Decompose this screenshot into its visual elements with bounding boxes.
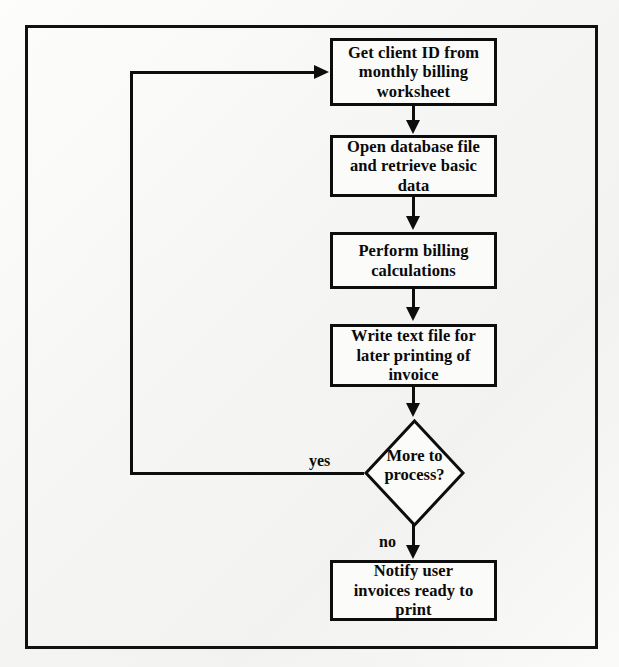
node-get-client-id-line-2: monthly billing [348, 62, 479, 81]
node-notify-user-line-3: print [354, 600, 474, 619]
edge-yes-horizontal-top [130, 71, 315, 74]
edge-open-database-to-perform-billing-arrow [406, 216, 420, 230]
flowchart-canvas: Get client ID from monthly billing works… [0, 0, 619, 667]
edge-no-arrow [406, 545, 420, 559]
node-perform-billing-line-2: calculations [358, 261, 468, 280]
node-get-client-id[interactable]: Get client ID from monthly billing works… [330, 38, 497, 106]
edge-get-client-id-to-open-database-arrow [406, 120, 420, 134]
edge-yes-vertical [130, 71, 133, 475]
edge-write-text-file-to-decision-arrow [406, 403, 420, 417]
node-perform-billing-line-1: Perform billing [358, 241, 468, 260]
node-write-text-file-line-3: invoice [351, 365, 476, 384]
node-open-database[interactable]: Open database file and retrieve basic da… [330, 135, 497, 197]
edge-yes-arrow [314, 65, 329, 79]
node-more-to-process-label: More to process? [363, 446, 466, 485]
node-perform-billing[interactable]: Perform billing calculations [330, 232, 497, 289]
node-notify-user[interactable]: Notify user invoices ready to print [330, 560, 497, 621]
edge-open-database-to-perform-billing-line [412, 197, 415, 218]
diagram-frame-border [25, 25, 598, 649]
node-write-text-file[interactable]: Write text file for later printing of in… [330, 324, 497, 387]
node-write-text-file-line-1: Write text file for [351, 326, 476, 345]
edge-label-yes: yes [309, 452, 330, 470]
edge-no-line [412, 524, 415, 547]
edge-perform-billing-to-write-text-file-line [412, 289, 415, 309]
node-notify-user-line-1: Notify user [354, 561, 474, 580]
node-get-client-id-line-3: worksheet [348, 82, 479, 101]
node-open-database-line-3: data [347, 176, 480, 195]
edge-yes-horizontal-bottom [130, 472, 364, 475]
node-notify-user-line-2: invoices ready to [354, 581, 474, 600]
node-write-text-file-line-2: later printing of [351, 346, 476, 365]
node-open-database-line-2: and retrieve basic [347, 156, 480, 175]
node-more-to-process-line-2: process? [384, 465, 444, 484]
node-open-database-line-1: Open database file [347, 137, 480, 156]
edge-label-no: no [379, 533, 396, 551]
node-more-to-process-line-1: More to [386, 446, 442, 465]
node-get-client-id-line-1: Get client ID from [348, 43, 479, 62]
edge-perform-billing-to-write-text-file-arrow [406, 307, 420, 321]
edge-write-text-file-to-decision-line [412, 387, 415, 404]
